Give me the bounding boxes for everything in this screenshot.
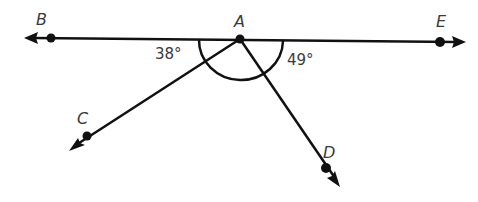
label-a: A (233, 12, 245, 31)
label-b: B (36, 10, 47, 29)
point-c (83, 132, 92, 141)
line-be (34, 38, 456, 42)
label-e: E (436, 12, 447, 31)
geometry-diagram: B A E C D 38° 49° (0, 0, 478, 202)
point-b (47, 34, 56, 43)
arrowhead-d (327, 171, 340, 187)
arrowhead-e (452, 36, 466, 48)
angle-arc (199, 39, 283, 80)
angle-label-38: 38° (155, 45, 182, 63)
label-c: C (77, 109, 89, 128)
point-a (236, 35, 245, 44)
point-e (435, 37, 445, 47)
angle-label-49: 49° (287, 51, 314, 69)
point-d (321, 163, 331, 173)
label-d: D (323, 143, 335, 162)
arrowhead-b (24, 32, 38, 44)
